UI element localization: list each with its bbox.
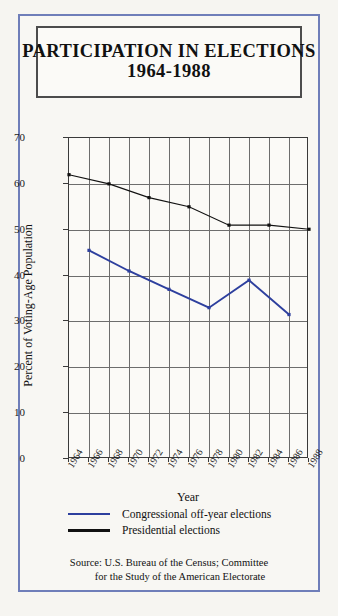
y-tick-mark [63,366,68,367]
data-point-marker [147,196,150,199]
data-point-marker [247,279,250,282]
data-point-marker [87,249,90,252]
data-point-marker [207,306,210,309]
data-point-marker [167,288,170,291]
data-point-marker [67,173,70,176]
source-note: Source: U.S. Bureau of the Census; Commi… [38,556,300,583]
source-line-2: for the Study of the American Electorate [38,570,300,584]
chart-legend: Congressional off-year elections Preside… [68,508,318,540]
series-layer [69,138,309,459]
y-tick-mark [63,275,68,276]
x-axis-label: Year [68,490,308,505]
y-tick-label: 30 [14,314,25,326]
data-point-marker [307,228,310,231]
data-point-marker [287,313,290,316]
data-point-marker [187,205,190,208]
y-tick-label: 0 [20,452,26,464]
legend-item-presidential: Presidential elections [68,524,318,536]
series-line [69,175,309,230]
y-tick-mark [63,412,68,413]
legend-label-congressional: Congressional off-year elections [122,508,271,520]
y-tick-label: 20 [14,360,25,372]
y-tick-mark [63,320,68,321]
y-tick-label: 10 [14,406,25,418]
plot-area [68,137,308,458]
source-line-1: Source: U.S. Bureau of the Census; Commi… [70,557,268,568]
legend-line-icon-presidential [68,529,110,532]
y-tick-label: 40 [14,269,25,281]
legend-label-presidential: Presidential elections [122,524,220,536]
y-tick-label: 70 [14,131,25,143]
chart-container: Percent of Voting-Age Population Year Co… [0,0,338,616]
data-point-marker [267,224,270,227]
data-point-marker [127,269,130,272]
y-tick-label: 60 [14,177,25,189]
y-tick-mark [63,229,68,230]
legend-item-congressional: Congressional off-year elections [68,508,318,520]
legend-line-icon-congressional [68,513,110,515]
y-axis-label: Percent of Voting-Age Population [21,206,36,406]
series-line [89,250,289,314]
y-tick-mark [63,137,68,138]
y-tick-mark [63,183,68,184]
data-point-marker [227,224,230,227]
poster-background: PARTICIPATION IN ELECTIONS 1964-1988 Per… [0,0,338,616]
y-tick-label: 50 [14,223,25,235]
data-point-marker [107,182,110,185]
